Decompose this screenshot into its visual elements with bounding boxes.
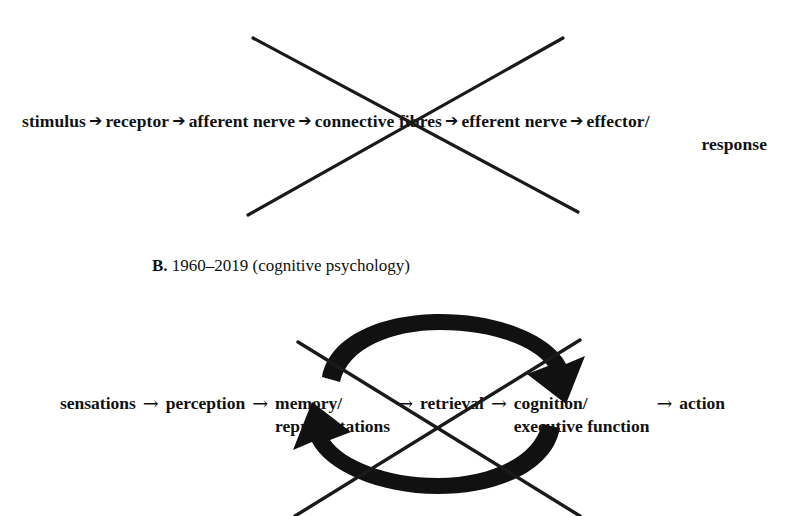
thin-right-arrow-icon: → — [245, 392, 275, 414]
panel-b-term-6: action — [679, 393, 725, 413]
panel-a-term-2: receptor — [106, 111, 170, 131]
panel-a-term-4: connective fibres — [315, 111, 442, 131]
panel-a-term-1: stimulus — [22, 111, 86, 131]
panel-b-segment-3: memory/ representations — [275, 392, 390, 439]
panel-b-term-1: sensations — [60, 393, 136, 413]
panel-b-term-5: cognition/ — [514, 393, 588, 413]
panel-b-segment-1: sensations — [60, 392, 136, 415]
panel-b-heading-text: 1960–2019 (cognitive psychology) — [172, 256, 410, 275]
heavy-right-arrow-icon: ➔ — [295, 111, 315, 130]
figure-canvas: stimulus➔receptor➔afferent nerve➔connect… — [0, 0, 787, 516]
heavy-right-arrow-icon: ➔ — [169, 111, 189, 130]
panel-b-letter: B. — [152, 256, 168, 275]
panel-b-cognitive-psychology: sensations → perception → memory/ repres… — [0, 300, 787, 516]
heavy-right-arrow-icon: ➔ — [567, 111, 587, 130]
panel-b-heading: B. 1960–2019 (cognitive psychology) — [152, 255, 410, 277]
panel-b-term-5-continuation: executive function — [514, 415, 650, 438]
panel-b-segment-2: perception — [166, 392, 245, 415]
heavy-right-arrow-icon: ➔ — [442, 111, 462, 130]
thin-right-arrow-icon: → — [649, 392, 679, 414]
thin-right-arrow-icon: → — [484, 392, 514, 414]
panel-a-term-6-continuation: response — [22, 133, 767, 156]
thin-right-arrow-icon: → — [136, 392, 166, 414]
panel-b-process-chain: sensations → perception → memory/ repres… — [60, 392, 780, 439]
heavy-right-arrow-icon: ➔ — [86, 111, 106, 130]
panel-b-term-3: memory/ — [275, 393, 342, 413]
panel-a-reflex-arc: stimulus➔receptor➔afferent nerve➔connect… — [0, 0, 787, 240]
forward-sweep-arc-arrow — [322, 314, 585, 404]
thin-right-arrow-icon: → — [390, 392, 420, 414]
panel-a-term-3: afferent nerve — [189, 111, 296, 131]
panel-b-segment-6: action — [679, 392, 725, 415]
panel-b-segment-5: cognition/ executive function — [514, 392, 650, 439]
panel-a-process-chain: stimulus➔receptor➔afferent nerve➔connect… — [22, 110, 767, 156]
panel-a-term-5: efferent nerve — [462, 111, 568, 131]
panel-b-term-2: perception — [166, 393, 245, 413]
panel-a-term-6: effector/ — [587, 111, 650, 131]
panel-b-term-3-continuation: representations — [275, 415, 390, 438]
panel-b-term-4: retrieval — [420, 393, 484, 413]
panel-b-segment-4: retrieval — [420, 392, 484, 415]
